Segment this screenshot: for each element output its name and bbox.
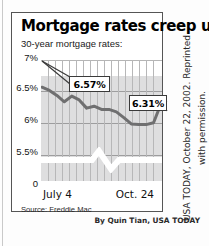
y-tick-6-5: 6.5% [16, 83, 38, 93]
chart-title: Mortgage rates creep up [21, 19, 163, 34]
y-tick-0: 0 [33, 179, 38, 189]
scan-edge-rule [2, 0, 3, 246]
y-tick-7: 7% [24, 53, 38, 63]
callout-end-value: 6.31% [129, 95, 167, 111]
infographic-root: Mortgage rates creep up 30-year mortgage… [0, 0, 209, 246]
chart-subtitle: 30-year mortgage rates: [21, 38, 161, 49]
y-axis-labels: 7% 6.5% 6% 5.5% 0 [12, 53, 41, 193]
copyright-line-2: with permission. [197, 91, 207, 165]
source-note: Source: Freddie Mac [21, 205, 91, 214]
y-tick-6: 6% [24, 115, 38, 125]
callout-start-value: 6.57% [69, 76, 110, 92]
y-tick-5-5: 5.5% [16, 147, 38, 157]
x-axis-end-label: Oct. 24 [116, 188, 154, 200]
x-axis-start-label: July 4 [43, 188, 72, 200]
copyright-vertical: USA TODAY, October 22, 2002. Reprinted w… [179, 16, 209, 240]
chart-card: Mortgage rates creep up 30-year mortgage… [11, 12, 163, 212]
copyright-line-1: USA TODAY, October 22, 2002. Reprinted [182, 35, 192, 221]
